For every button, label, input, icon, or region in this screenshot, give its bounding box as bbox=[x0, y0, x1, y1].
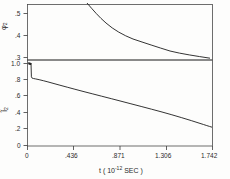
figure-container: .5 .4 .3 1.0 .8 .6 .4 .2 0 0 .436 .871 1… bbox=[0, 0, 230, 179]
bottom-ytick-label-4: .2 bbox=[15, 125, 20, 132]
curve-phi2 bbox=[87, 3, 210, 58]
top-yaxis-label-symbol: φ bbox=[0, 25, 8, 30]
top-yaxis-label-subscript: 2 bbox=[2, 22, 8, 25]
top-ytick-label-0: .5 bbox=[15, 10, 20, 17]
xaxis-label: t ( 10-12 SEC ) bbox=[99, 165, 143, 174]
bottom-ytick-label-2: .6 bbox=[15, 92, 20, 99]
bottom-yaxis-label: Ĩ2 bbox=[0, 107, 9, 112]
xaxis-label-prefix: t ( 10 bbox=[99, 167, 115, 174]
top-yaxis-label: φ2 bbox=[0, 22, 8, 30]
top-ytick-label-1: .4 bbox=[15, 32, 20, 39]
xaxis-label-suffix: SEC ) bbox=[122, 167, 143, 174]
xtick-label-0: 0 bbox=[25, 152, 29, 159]
top-panel-frame bbox=[28, 5, 213, 61]
bottom-ytick-label-0: 1.0 bbox=[11, 60, 20, 67]
bottom-ytick-label-1: .8 bbox=[15, 76, 20, 83]
bottom-panel-frame bbox=[28, 60, 213, 146]
xtick-label-1: .436 bbox=[65, 152, 78, 159]
bottom-ytick-label-3: .4 bbox=[15, 109, 20, 116]
curve-i2 bbox=[28, 63, 212, 128]
xtick-label-3: 1.306 bbox=[155, 152, 171, 159]
bottom-yaxis-label-symbol: Ĩ bbox=[0, 110, 9, 112]
bottom-yaxis-label-subscript: 2 bbox=[3, 107, 9, 110]
xtick-label-2: .871 bbox=[112, 152, 125, 159]
bottom-ytick-label-5: 0 bbox=[17, 142, 21, 149]
xtick-label-4: 1.742 bbox=[201, 152, 217, 159]
